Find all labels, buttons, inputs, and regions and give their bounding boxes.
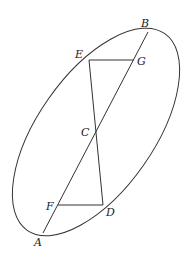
geometry-diagram: B E G C F D A	[0, 0, 190, 263]
ellipse	[0, 0, 190, 263]
segment-ed	[89, 60, 103, 205]
label-g: G	[137, 55, 146, 68]
label-f: F	[45, 200, 54, 213]
label-a: A	[33, 236, 42, 249]
label-e: E	[74, 48, 83, 61]
label-b: B	[140, 17, 149, 30]
label-c: C	[81, 126, 90, 139]
label-d: D	[105, 206, 115, 219]
